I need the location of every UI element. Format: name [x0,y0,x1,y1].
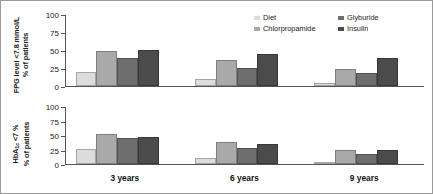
bar-diet-9-years [314,162,335,164]
y-tick-75-hba1c [61,122,65,123]
legend-label: Insulin [347,24,368,33]
bar-group-bars [314,107,398,164]
y-ticklabel-25-fpg: 25 [50,65,59,74]
bar-glyburide-6-years [237,68,258,86]
legend-item-diet: Diet [254,13,332,22]
bar-chlorpropamide-3-years [96,134,117,164]
bar-glyburide-3-years [117,138,138,164]
bar-chlorpropamide-6-years [216,142,237,164]
x-axis-labels: 3 years6 years9 years [65,173,424,183]
y-axis-title-hba1c-prefix: HbA [11,149,20,164]
bar-insulin-6-years [257,54,278,86]
bar-diet-3-years [76,149,97,164]
y-ticklabel-0-hba1c: 0 [55,161,59,170]
x-axis-label-6-years: 6 years [185,173,305,183]
legend-label: Glyburide [347,13,379,22]
legend-swatch-icon [338,27,344,31]
legend-label: Chlorpropamide [263,24,316,33]
y-axis-title-fpg: FPG level <7.8 mmol/L % of patients [1,9,41,101]
bar-group-bars [76,107,160,164]
bar-glyburide-6-years [237,148,258,164]
bar-diet-9-years [314,83,335,86]
y-tick-100-fpg [61,15,65,16]
y-ticklabel-75-hba1c: 75 [50,117,59,126]
bar-insulin-6-years [257,144,278,164]
bar-diet-3-years [76,72,97,86]
bar-insulin-3-years [138,50,159,86]
y-ticklabel-75-fpg: 75 [50,29,59,38]
y-tick-50-hba1c [61,136,65,137]
y-axis-title-hba1c-subscript: 1c [14,143,20,149]
panel-fpg: FPG level <7.8 mmol/L % of patients 100 … [1,9,432,101]
bar-chlorpropamide-6-years [216,60,237,86]
y-tick-75-fpg [61,33,65,34]
bar-chlorpropamide-9-years [335,150,356,164]
bar-group [305,107,424,164]
plot-area-hba1c: 100 75 50 25 0 [65,107,424,165]
y-tick-25-hba1c [61,151,65,152]
bar-glyburide-9-years [356,154,377,164]
y-axis-title-hba1c-line1: HbA1c <7 % [11,124,20,163]
bar-chlorpropamide-9-years [335,69,356,86]
y-tick-0-hba1c [61,165,65,166]
bar-insulin-3-years [138,137,159,164]
y-tick-25-fpg [61,69,65,70]
y-ticklabel-100-fpg: 100 [46,11,59,20]
chart-legend: DietGlyburideChlorpropamideInsulin [254,13,422,33]
y-tick-100-hba1c [61,107,65,108]
legend-item-insulin: Insulin [338,24,416,33]
y-tick-0-fpg [61,87,65,88]
y-axis-title-fpg-line2: % of patients [21,17,30,94]
x-axis-label-9-years: 9 years [304,173,424,183]
legend-swatch-icon [254,27,260,31]
bar-group-bars [76,15,160,86]
bar-group [66,107,185,164]
legend-swatch-icon [338,16,344,20]
y-ticklabel-50-fpg: 50 [50,47,59,56]
y-ticklabel-0-fpg: 0 [55,83,59,92]
y-axis-title-hba1c: HbA1c <7 % % of patients [1,101,41,187]
bar-group-bars [195,107,279,164]
bar-diet-6-years [195,158,216,164]
x-axis-label-3-years: 3 years [65,173,185,183]
legend-item-chlorpropamide: Chlorpropamide [254,24,332,33]
y-axis-title-hba1c-line2: % of patients [22,122,31,167]
bar-glyburide-3-years [117,58,138,86]
legend-swatch-icon [254,16,260,20]
bar-glyburide-9-years [356,73,377,86]
y-ticklabel-50-hba1c: 50 [50,132,59,141]
legend-label: Diet [263,13,276,22]
x-axis-line-hba1c [65,164,424,165]
bar-group [66,15,185,86]
panel-hba1c: HbA1c <7 % % of patients 100 75 50 25 0 … [1,101,432,187]
y-tick-50-fpg [61,51,65,52]
bar-insulin-9-years [377,58,398,86]
bar-chlorpropamide-3-years [96,51,117,87]
y-ticklabel-100-hba1c: 100 [46,103,59,112]
bar-diet-6-years [195,79,216,86]
bar-groups-hba1c [66,107,424,164]
bar-group [185,107,304,164]
legend-item-glyburide: Glyburide [338,13,416,22]
x-axis-line-fpg [65,86,424,87]
y-axis-title-fpg-line1: FPG level <7.8 mmol/L [12,17,21,94]
y-axis-title-hba1c-suffix: <7 % [11,124,20,143]
chart-figure: FPG level <7.8 mmol/L % of patients 100 … [0,0,433,194]
y-ticklabel-25-hba1c: 25 [50,146,59,155]
bar-insulin-9-years [377,150,398,164]
